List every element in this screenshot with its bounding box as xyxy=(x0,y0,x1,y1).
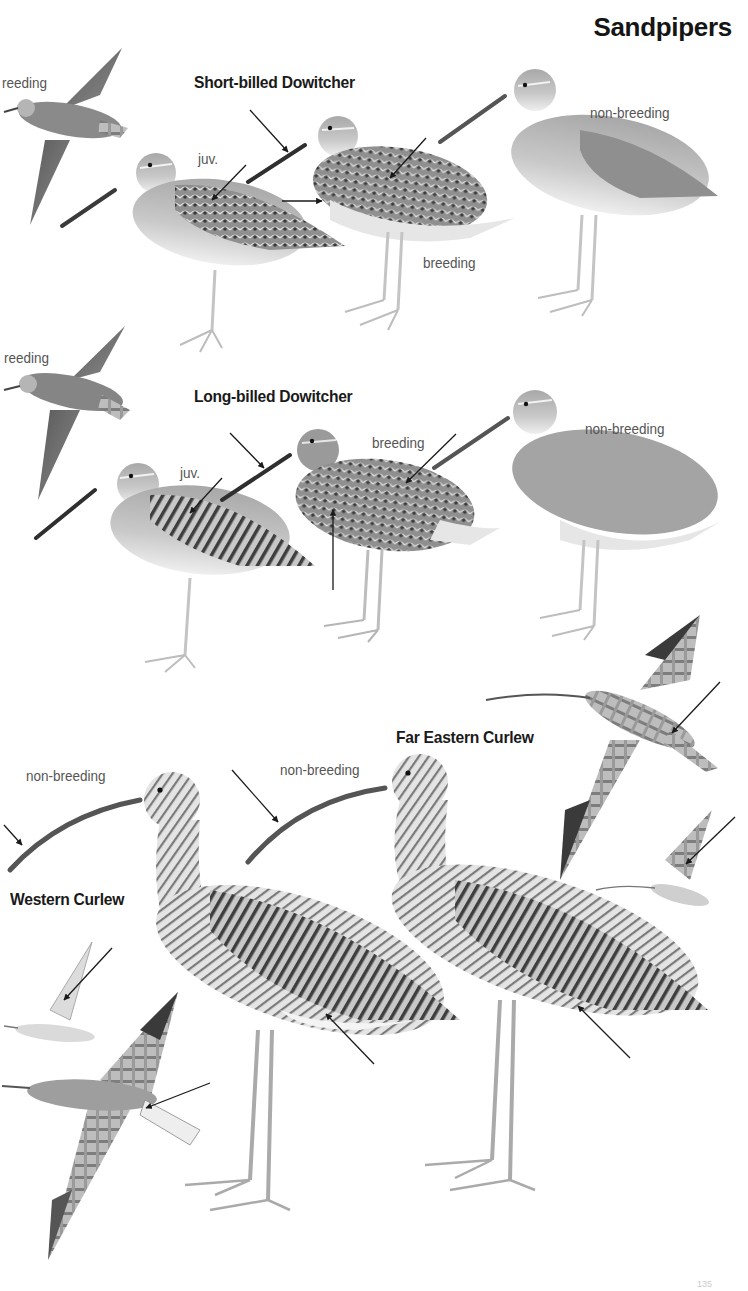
long-billed-juv-bird xyxy=(36,463,315,672)
long-billed-juv-label: juv. xyxy=(180,464,200,481)
short-billed-breeding-label: breeding xyxy=(423,254,476,271)
short-billed-juv-label: juv. xyxy=(198,150,218,167)
western-curlew-small-flight-bird xyxy=(4,942,96,1045)
short-billed-juv-bird xyxy=(62,153,345,352)
long-billed-nonbreeding-label: non-breeding xyxy=(585,420,665,437)
far-eastern-curlew-nonbreeding-label: non-breeding xyxy=(280,761,360,778)
species-heading-short-billed-dowitcher: Short-billed Dowitcher xyxy=(194,73,355,93)
western-curlew-nonbreeding-label: non-breeding xyxy=(26,767,106,784)
long-billed-flight-label: reeding xyxy=(4,349,49,366)
species-heading-far-eastern-curlew: Far Eastern Curlew xyxy=(396,728,534,748)
long-billed-nonbreeding-bird xyxy=(434,390,726,640)
short-billed-flight-label: reeding xyxy=(2,74,47,91)
page-number: 135 xyxy=(697,1279,712,1289)
page-title: Sandpipers xyxy=(593,12,732,43)
species-heading-long-billed-dowitcher: Long-billed Dowitcher xyxy=(194,387,352,407)
far-eastern-curlew-small-flight-bird xyxy=(596,810,712,910)
long-billed-breeding-label: breeding xyxy=(372,434,425,451)
species-heading-western-curlew: Western Curlew xyxy=(10,890,124,910)
bird-illustrations xyxy=(0,0,748,1291)
field-guide-page: Sandpipers reeding Short-billed Dowitche… xyxy=(0,0,748,1291)
short-billed-nonbreeding-label: non-breeding xyxy=(590,104,670,121)
